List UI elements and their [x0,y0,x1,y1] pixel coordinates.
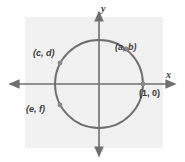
point-marker-ef [58,103,63,108]
point-label-ef: (e, f) [26,104,45,114]
point-marker-10 [141,82,146,87]
point-marker-cd [58,61,63,66]
x-axis-label: x [166,69,171,80]
point-label-one-zero: (1, 0) [139,88,160,98]
point-label-cd: (c, d) [33,48,55,58]
figure-canvas [0,0,185,162]
point-label-ab: (a, b) [115,42,137,52]
unit-circle-figure: (a, b) (c, d) (e, f) (1, 0) y x [0,0,185,162]
y-axis-label: y [101,3,105,14]
